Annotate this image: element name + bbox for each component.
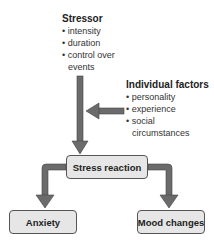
anxiety-node: Anxiety	[9, 210, 77, 234]
mood-changes-node: Mood changes	[137, 210, 205, 234]
individual-factors-item: • personality	[126, 91, 209, 103]
individual-factors-title: Individual factors	[126, 79, 209, 91]
stress-reaction-node: Stress reaction	[66, 155, 148, 179]
individual-factors-block: Individual factors • personality • exper…	[126, 79, 209, 139]
individual-factors-item: circumstances	[126, 127, 209, 139]
elbow-arrow-left-icon	[36, 164, 66, 208]
left-arrow-icon	[86, 103, 124, 119]
stressor-item: • duration	[62, 37, 115, 49]
stressor-title: Stressor	[62, 13, 115, 25]
elbow-arrow-right-icon	[148, 164, 178, 208]
individual-factors-item: • experience	[126, 103, 209, 115]
stressor-block: Stressor • intensity • duration • contro…	[62, 13, 115, 73]
stressor-item: • intensity	[62, 25, 115, 37]
stressor-item: • control over	[62, 49, 115, 61]
individual-factors-item: • social	[126, 115, 209, 127]
stressor-item: events	[62, 61, 115, 73]
down-arrow-icon	[72, 76, 88, 154]
